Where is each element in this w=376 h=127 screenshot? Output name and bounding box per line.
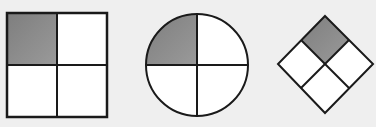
square-quarter-shaded: [7, 13, 107, 117]
square-shaded-quarter: [7, 13, 57, 65]
square-quarter: [57, 13, 107, 65]
fraction-figures: [0, 0, 376, 127]
square-quarter: [7, 65, 57, 117]
circle-quarter-shaded: [146, 14, 248, 116]
square-quarter: [57, 65, 107, 117]
